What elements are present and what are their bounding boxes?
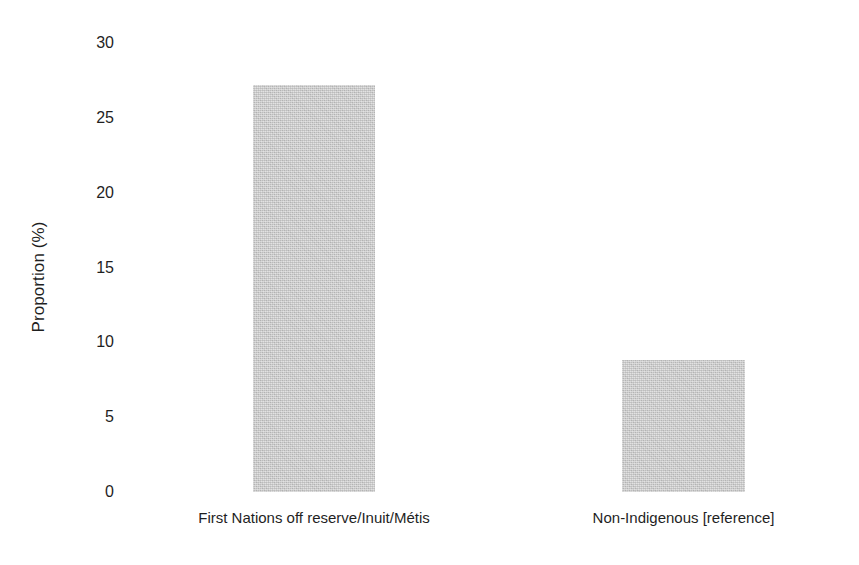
bar-chart-figure: Proportion (%) 30 25 20 15 10 5 0 First … (0, 0, 859, 565)
bar-first-nations-off-reserve-inuit-metis (253, 85, 375, 492)
plot-area (0, 0, 859, 565)
x-axis-label-first-nations-off-reserve-inuit-metis: First Nations off reserve/Inuit/Métis (114, 508, 514, 527)
bar-non-indigenous-reference (622, 360, 745, 492)
x-axis-label-non-indigenous-reference: Non-Indigenous [reference] (484, 508, 859, 527)
